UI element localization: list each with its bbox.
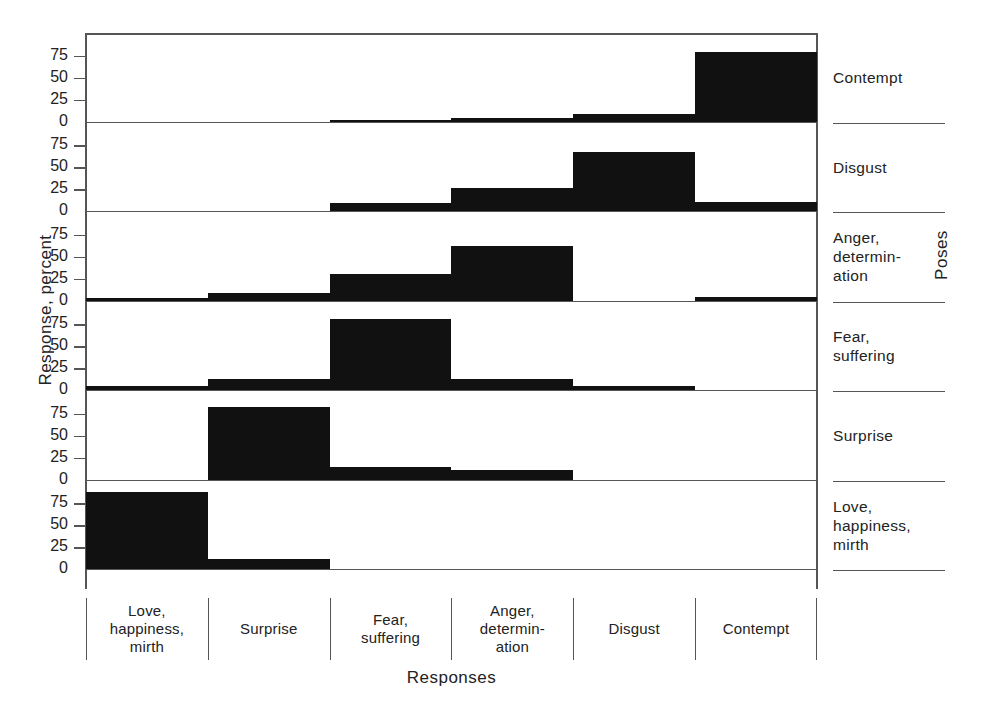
bar-cell xyxy=(86,34,208,122)
pose-label-anger: Anger,determin-ation xyxy=(833,228,973,285)
bar-cell xyxy=(208,302,330,390)
pose-label-disgust: Disgust xyxy=(833,158,973,177)
y-tick-label: 0 xyxy=(28,560,68,576)
pose-label-line: determin- xyxy=(833,247,973,266)
x-category-fear: Fear,suffering xyxy=(330,596,452,662)
bar xyxy=(208,293,330,300)
panel-anger xyxy=(86,212,817,302)
y-tick-label: 50 xyxy=(28,337,68,353)
bar-cell xyxy=(695,302,817,390)
bar-cell xyxy=(573,34,695,122)
bar-cell xyxy=(573,302,695,390)
y-tick-label: 25 xyxy=(28,449,68,465)
bar-cell xyxy=(451,34,573,122)
pose-separator-rule xyxy=(833,212,945,213)
x-category-label-line: mirth xyxy=(110,638,185,656)
bar-cell xyxy=(208,34,330,122)
bar-cell xyxy=(330,213,452,301)
bar xyxy=(208,559,330,569)
pose-separator-rule xyxy=(833,570,945,571)
x-category-label-line: Anger, xyxy=(480,602,545,620)
y-tick-label: 0 xyxy=(28,202,68,218)
bar xyxy=(86,492,208,569)
bar xyxy=(208,379,330,390)
bar-cell xyxy=(86,481,208,569)
y-tick-label: 25 xyxy=(28,270,68,286)
x-category-anger: Anger,determin-ation xyxy=(451,596,573,662)
y-tick-label: 75 xyxy=(28,405,68,421)
bar-group xyxy=(86,34,817,122)
bar-cell xyxy=(573,213,695,301)
pose-separator-rule xyxy=(833,123,945,124)
y-tick-mark xyxy=(74,458,85,460)
bar-cell xyxy=(330,392,452,480)
x-category-label-line: Love, xyxy=(110,602,185,620)
x-category-divider xyxy=(816,598,817,660)
panel-contempt xyxy=(86,33,817,123)
pose-separator-rule xyxy=(833,481,945,482)
y-tick-mark xyxy=(74,525,85,527)
bar xyxy=(451,379,573,390)
x-category-label-line: Surprise xyxy=(240,620,297,638)
y-tick-mark xyxy=(74,414,85,416)
y-tick-mark xyxy=(74,56,85,58)
bar-group xyxy=(86,213,817,301)
y-tick-label: 50 xyxy=(28,427,68,443)
bar-cell xyxy=(451,392,573,480)
y-tick-label: 50 xyxy=(28,158,68,174)
x-category-label: Love,happiness,mirth xyxy=(110,602,185,656)
x-category-divider xyxy=(695,598,696,660)
bar xyxy=(573,152,695,211)
x-category-divider xyxy=(208,598,209,660)
pose-label-love: Love,happiness,mirth xyxy=(833,497,973,554)
x-category-label: Fear,suffering xyxy=(361,611,420,647)
panel-baseline xyxy=(86,569,817,570)
bar-cell xyxy=(573,392,695,480)
y-tick-mark xyxy=(74,279,85,281)
pose-label-line: Love, xyxy=(833,497,973,516)
bar xyxy=(330,319,452,390)
x-category-label: Anger,determin-ation xyxy=(480,602,545,656)
y-tick-label: 25 xyxy=(28,359,68,375)
bar-cell xyxy=(208,481,330,569)
x-category-contempt: Contempt xyxy=(695,596,817,662)
bar-cell xyxy=(330,123,452,211)
panel-surprise xyxy=(86,391,817,481)
y-tick-label: 25 xyxy=(28,538,68,554)
bar-cell xyxy=(573,481,695,569)
y-tick-label: 50 xyxy=(28,69,68,85)
y-tick-mark xyxy=(74,78,85,80)
x-category-divider xyxy=(573,598,574,660)
bar-cell xyxy=(330,302,452,390)
panel-stack xyxy=(86,33,817,589)
bar-cell xyxy=(451,213,573,301)
pose-separator-rule xyxy=(833,391,945,392)
y-tick-mark xyxy=(74,167,85,169)
pose-label-line: Fear, xyxy=(833,327,973,346)
bar-cell xyxy=(86,213,208,301)
x-category-label: Disgust xyxy=(609,620,660,638)
bar-cell xyxy=(695,213,817,301)
y-tick-label: 75 xyxy=(28,47,68,63)
pose-label-line: ation xyxy=(833,266,973,285)
bar-cell xyxy=(695,123,817,211)
bar-group xyxy=(86,481,817,569)
x-axis-title: Responses xyxy=(86,668,817,688)
y-tick-label: 75 xyxy=(28,315,68,331)
x-category-surprise: Surprise xyxy=(208,596,330,662)
bar-cell xyxy=(330,34,452,122)
pose-label-line: mirth xyxy=(833,535,973,554)
y-tick-mark xyxy=(74,346,85,348)
pose-label-line: Surprise xyxy=(833,426,973,445)
x-category-divider xyxy=(86,598,87,660)
x-category-label-line: determin- xyxy=(480,620,545,638)
pose-label-line: suffering xyxy=(833,346,973,365)
y-tick-mark xyxy=(74,436,85,438)
x-category-love: Love,happiness,mirth xyxy=(86,596,208,662)
bar xyxy=(451,470,573,480)
x-category-label-line: happiness, xyxy=(110,620,185,638)
bar-cell xyxy=(86,392,208,480)
bar xyxy=(451,188,573,211)
y-tick-label: 25 xyxy=(28,91,68,107)
bar-group xyxy=(86,302,817,390)
